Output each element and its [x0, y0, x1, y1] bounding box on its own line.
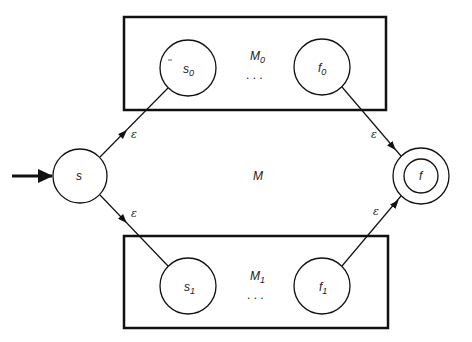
- machine-box-m1: s1 M1 . . . f1: [124, 236, 388, 328]
- center-machine-label: M: [253, 169, 263, 183]
- edge-label-epsilon: ε: [371, 128, 377, 141]
- nfa-diagram: s0 M0 . . . f0 s1 M1 . . . f1 s f M ε ε: [0, 0, 472, 342]
- edge-label-epsilon: ε: [131, 128, 137, 141]
- edge-label-epsilon: ε: [131, 207, 137, 220]
- machine-m1-label: M1: [250, 269, 265, 285]
- edge-label-epsilon: ε: [373, 205, 379, 218]
- edge-f1-to-f: ε: [342, 196, 401, 266]
- machine-m1-ellipsis: . . .: [247, 288, 264, 302]
- edge-f0-to-f: ε: [342, 87, 401, 156]
- machine-m0-ellipsis: . . .: [246, 68, 263, 82]
- edge-s-to-s0: ε: [100, 88, 168, 157]
- edge-s-to-s1: ε: [100, 195, 168, 266]
- state-s-label: s: [76, 169, 82, 183]
- machine-m0-label: M0: [250, 49, 265, 65]
- state-f: f: [393, 148, 449, 204]
- machine-box-m0: s0 M0 . . . f0: [124, 17, 386, 110]
